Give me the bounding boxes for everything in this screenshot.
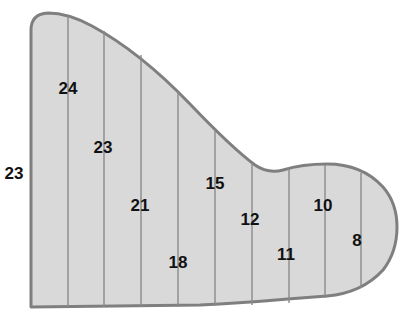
ordinate-label-24: 24 [59,79,78,98]
region-figure: 24 23 21 18 15 12 11 10 8 23 [0,0,401,326]
ordinate-label-12: 12 [241,210,260,229]
ordinate-label-11: 11 [277,245,295,264]
ordinate-label-10: 10 [314,196,333,215]
ordinate-label-23: 23 [94,138,113,157]
ordinate-label-21: 21 [131,196,150,215]
left-edge-label: 23 [5,164,24,183]
ordinate-label-8: 8 [352,231,361,250]
ordinate-label-18: 18 [169,253,188,272]
region-diagram-svg: 24 23 21 18 15 12 11 10 8 23 [0,0,401,326]
ordinate-label-15: 15 [206,174,225,193]
region-outline-path [31,13,397,307]
